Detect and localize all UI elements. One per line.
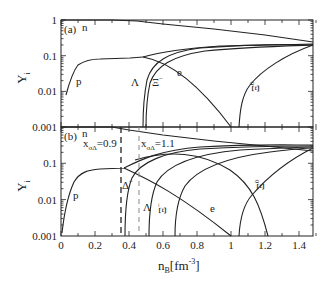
curve-e-a — [143, 57, 231, 127]
annotation-x1.1: xσΔ=1.1 — [141, 137, 175, 152]
xtick-1.2: 1.2 — [258, 239, 272, 251]
x-axis-label: nB[fm-3] — [158, 257, 200, 275]
label-xi0-b: Ξ0 — [253, 179, 266, 190]
y-axis-label-a: Yi — [14, 71, 32, 83]
curve-n-a — [61, 20, 313, 42]
svg-text:Yi: Yi — [14, 71, 32, 83]
figure: 1 0.1 0.01 0.001 0.1 0.01 0.001 0 0.2 0.… — [0, 0, 327, 284]
xtick-0: 0 — [58, 239, 64, 251]
label-xim-b: Ξ− — [155, 203, 168, 214]
label-p-a: p — [76, 75, 82, 87]
curve-lambda-b — [149, 147, 313, 236]
ytick-a-1: 1 — [52, 14, 58, 26]
svg-text:Yi: Yi — [14, 179, 32, 191]
panel-b-label: (b) — [64, 130, 77, 143]
curve-lambda-a — [143, 45, 313, 127]
curve-p-upper-b — [135, 154, 268, 236]
curve-xi0-b — [239, 148, 313, 236]
ytick-b-0.01: 0.01 — [38, 194, 57, 206]
label-lambda-b: Λ — [143, 201, 151, 213]
label-xi0-a: Ξ0 — [248, 81, 261, 92]
ytick-a-0.01: 0.01 — [38, 85, 57, 97]
label-e-a: e — [177, 66, 182, 78]
curve-xim-b — [175, 148, 313, 236]
tick-marks — [61, 20, 316, 236]
y-axis-label-b: Yi — [14, 179, 32, 191]
xtick-0.8: 0.8 — [190, 239, 204, 251]
annotation-x0.9: xσΔ=0.9 — [83, 137, 117, 152]
curve-p-b — [62, 168, 125, 233]
ytick-a-0.001: 0.001 — [32, 121, 57, 133]
ytick-a-0.1: 0.1 — [43, 50, 57, 62]
xtick-0.6: 0.6 — [156, 239, 170, 251]
ytick-b-0.1: 0.1 — [43, 157, 57, 169]
label-delta-b: Δ− — [122, 178, 133, 191]
xtick-1.4: 1.4 — [292, 239, 306, 251]
label-n-a: n — [82, 21, 88, 33]
panel-a-label: (a) — [64, 23, 77, 36]
panel-a-curves — [61, 20, 313, 127]
label-p-b: p — [73, 189, 79, 201]
curve-xim-a — [146, 45, 313, 127]
label-xim-a: Ξ− — [152, 75, 163, 88]
label-lambda-a: Λ — [131, 76, 139, 88]
xtick-0.4: 0.4 — [122, 239, 136, 251]
chart-svg: 1 0.1 0.01 0.001 0.1 0.01 0.001 0 0.2 0.… — [0, 0, 327, 284]
label-e-b: e — [210, 202, 215, 214]
xtick-1: 1 — [228, 239, 234, 251]
curve-e-b — [124, 168, 231, 236]
ytick-b-0.001: 0.001 — [32, 230, 57, 242]
xtick-0.2: 0.2 — [88, 239, 102, 251]
